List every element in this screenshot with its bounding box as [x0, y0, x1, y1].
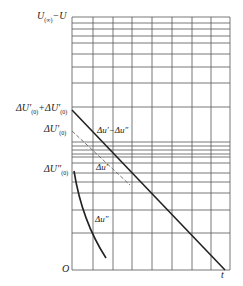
y-axis-title: U(∞)−U	[37, 11, 67, 23]
origin-label: O	[62, 264, 69, 274]
tick-label-sum: ΔU′(0)+ΔU′(0)	[16, 103, 67, 115]
curves	[72, 110, 225, 270]
semilog-diagram	[0, 0, 243, 286]
curve-label-prime: Δu′	[96, 163, 108, 172]
curve-diff	[72, 110, 225, 270]
curve-label-dprime: Δu″	[95, 215, 109, 224]
x-axis-label: t	[221, 270, 224, 280]
tick-label-dprime: ΔU″(0)	[44, 164, 68, 176]
curve-prime	[72, 131, 130, 185]
tick-label-prime: ΔU′(0)	[44, 124, 66, 136]
curve-label-diff: Δu′−Δu″	[97, 126, 128, 135]
grid	[72, 17, 230, 270]
